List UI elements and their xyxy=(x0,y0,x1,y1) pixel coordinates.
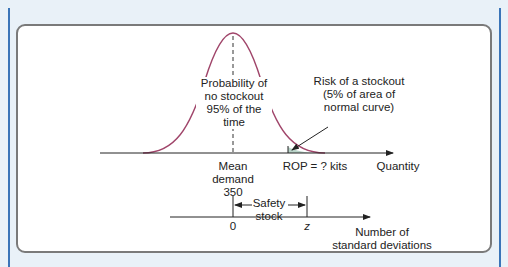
rop-label: ROP = ? kits xyxy=(275,160,355,173)
safety-stock-label: Safety stock xyxy=(249,197,289,223)
zero-label: 0 xyxy=(226,220,240,233)
risk-pointer xyxy=(292,127,328,150)
quantity-axis-label: Quantity xyxy=(368,160,428,173)
sd-axis-label: Number of standard deviations xyxy=(322,226,442,252)
mean-demand-label: Mean demand 350 xyxy=(208,160,258,199)
z-label: z xyxy=(300,220,314,233)
no-stockout-annotation: Probability of no stockout 95% of the ti… xyxy=(196,77,272,129)
risk-annotation: Risk of a stockout (5% of area of normal… xyxy=(300,75,418,114)
